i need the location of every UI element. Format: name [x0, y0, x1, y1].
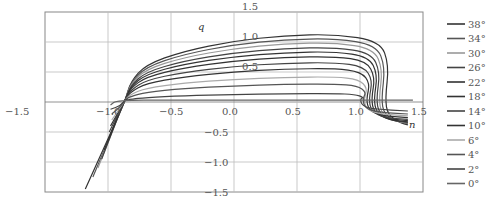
legend-label: 0° — [468, 178, 479, 189]
x-tick-label: −1.0 — [96, 106, 120, 117]
y-tick-label: 0.5 — [242, 61, 258, 72]
x-tick-label: 0.0 — [222, 106, 238, 117]
legend: 38°34°30°26°22°18°14°10°6°4°2°0° — [447, 19, 486, 190]
legend-label: 14° — [468, 106, 486, 117]
legend-label: 30° — [468, 48, 486, 59]
legend-item: 0° — [447, 178, 479, 189]
legend-label: 10° — [468, 120, 486, 131]
legend-item: 30° — [447, 48, 486, 59]
y-tick-label: −1.5 — [204, 187, 228, 198]
chart-svg: −1.5−1.0−0.50.00.51.01.51.51.00.5−0.5−1.… — [0, 0, 497, 204]
legend-item: 22° — [447, 77, 486, 88]
legend-label: 18° — [468, 91, 486, 102]
y-tick-label: −0.5 — [204, 127, 228, 138]
legend-label: 6° — [468, 135, 479, 146]
legend-item: 10° — [447, 120, 486, 131]
y-tick-label: 1.0 — [242, 31, 258, 42]
legend-item: 34° — [447, 33, 486, 44]
x-tick-label: 1.5 — [411, 106, 427, 117]
legend-item: 2° — [447, 164, 479, 175]
x-tick-label: −1.5 — [5, 106, 29, 117]
legend-label: 2° — [468, 164, 479, 175]
x-tick-label: 0.5 — [285, 106, 301, 117]
legend-item: 14° — [447, 106, 486, 117]
y-tick-label: −1.0 — [204, 157, 228, 168]
x-tick-label: −0.5 — [159, 106, 183, 117]
legend-item: 26° — [447, 62, 486, 73]
legend-label: 4° — [468, 149, 479, 160]
legend-label: 34° — [468, 33, 486, 44]
x-axis-label: n — [409, 119, 415, 130]
x-tick-label: 1.0 — [348, 106, 364, 117]
legend-label: 26° — [468, 62, 486, 73]
legend-item: 18° — [447, 91, 486, 102]
y-axis-label: q — [198, 21, 204, 32]
y-tick-label: 1.5 — [242, 1, 258, 12]
legend-item: 38° — [447, 19, 486, 30]
legend-label: 38° — [468, 19, 486, 30]
legend-item: 6° — [447, 135, 479, 146]
legend-item: 4° — [447, 149, 479, 160]
legend-label: 22° — [468, 77, 486, 88]
